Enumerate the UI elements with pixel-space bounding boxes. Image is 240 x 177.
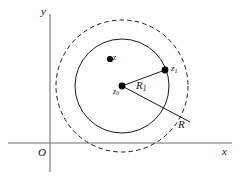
origin-label: O [38,147,46,158]
point-z0-label-subscript: 0 [116,90,119,96]
point-z-label: z [113,54,116,62]
figure-canvas: y x O z z0 z1 R1 R [0,0,240,177]
radius-r-segment [122,86,190,122]
radius-r1-label: R1 [136,80,146,92]
y-axis-label: y [41,6,46,17]
point-z1-marker [162,67,169,74]
diagram-svg [0,0,240,177]
radius-r-label: R [178,119,185,130]
radius-r1-label-base: R [136,79,143,91]
point-z0-center-marker [119,83,126,90]
x-axis-label: x [222,146,227,157]
point-z1-label-subscript: 1 [175,68,178,74]
point-z0-label: z0 [113,88,119,97]
point-z1-label: z1 [171,64,178,74]
radius-r1-label-subscript: 1 [143,84,147,93]
